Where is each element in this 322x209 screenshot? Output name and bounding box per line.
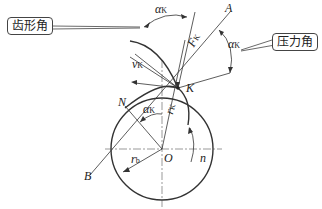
label-K: K [186, 82, 194, 94]
tooth-profile-angle-callout: 齿形角 [7, 17, 53, 35]
radius-rb [123, 149, 162, 172]
rb-label: rb [131, 153, 140, 165]
velocity-label: vK [132, 58, 143, 70]
label-O: O [164, 152, 173, 164]
pressure-angle-callout: 压力角 [272, 33, 318, 51]
label-N: N [118, 96, 126, 108]
alpha-right-label: αK [228, 38, 240, 50]
label-B: B [84, 170, 91, 182]
radius-rK [162, 40, 185, 149]
alpha-bottom-label: αK [143, 103, 155, 115]
label-n: n [200, 152, 206, 164]
force-line [178, 12, 195, 88]
rotation-arrow [190, 128, 194, 162]
label-A: A [225, 2, 232, 14]
angle-arc-top [144, 15, 187, 27]
alpha-top-label: αK [155, 3, 167, 15]
